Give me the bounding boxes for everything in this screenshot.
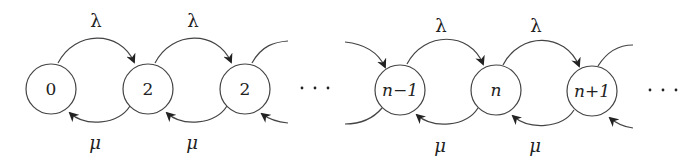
service-rate-label: μ: [89, 132, 101, 153]
state-label: 0: [46, 79, 57, 99]
arrival-rate-label: λ: [90, 10, 101, 31]
state-node-n-plus-1: n+1: [567, 66, 617, 116]
arrival-edge-n-1-n: [407, 39, 483, 64]
state-label: n: [491, 80, 502, 100]
arrival-edge-n-n+1: [503, 40, 579, 66]
state-node-n-minus-1: n−1: [375, 65, 425, 115]
arrival-edge-2-2: [155, 38, 231, 63]
state-label: n−1: [382, 80, 418, 100]
service-edge-n-1-out: [345, 108, 382, 124]
service-rate-label: μ: [434, 135, 446, 156]
arrival-edge-2-out: [252, 41, 288, 63]
ellipsis-middle: [301, 87, 330, 90]
arrival-edge-in-n-1: [345, 42, 385, 67]
birth-death-diagram: 0 2 2 n−1 n n+1 λ λ λ λ μ μ μ μ: [0, 0, 697, 164]
service-edge-in-n+1: [610, 118, 633, 128]
service-rate-label: μ: [186, 132, 198, 153]
state-label: n+1: [574, 81, 610, 101]
service-edge-n+1-n: [513, 110, 574, 126]
service-edge-n-n-1: [417, 108, 478, 124]
state-label: 2: [240, 79, 251, 99]
arrival-rate-label: λ: [187, 10, 198, 31]
arrival-rate-label: λ: [530, 15, 541, 36]
service-edge-2-0: [70, 106, 130, 122]
arrival-edge-n+1-out: [598, 45, 633, 66]
arrival-edge-0-2: [58, 38, 134, 63]
service-edge-in-2: [262, 114, 288, 123]
state-node-1: 2: [123, 64, 173, 114]
state-node-n: n: [471, 65, 521, 115]
state-label: 2: [143, 79, 154, 99]
state-node-2: 2: [220, 64, 270, 114]
service-edge-2-2: [167, 106, 227, 122]
arrival-rate-label: λ: [435, 15, 446, 36]
service-rate-label: μ: [529, 135, 541, 156]
ellipsis-end: [649, 89, 678, 92]
state-node-0: 0: [26, 64, 76, 114]
